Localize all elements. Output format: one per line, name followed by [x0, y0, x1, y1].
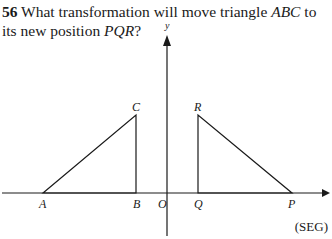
label-p: P	[288, 197, 295, 212]
triangle-abc	[43, 115, 136, 193]
label-c: C	[132, 100, 140, 115]
label-origin: O	[158, 197, 167, 212]
label-r: R	[194, 100, 201, 115]
x-axis-arrow-icon	[322, 189, 330, 197]
y-axis-label: y	[165, 20, 169, 31]
source-label: (SEG)	[295, 219, 328, 235]
label-a: A	[39, 197, 46, 212]
y-axis-arrow-icon	[163, 35, 171, 46]
label-b: B	[133, 197, 140, 212]
triangle-pqr	[198, 115, 292, 193]
label-q: Q	[194, 197, 203, 212]
